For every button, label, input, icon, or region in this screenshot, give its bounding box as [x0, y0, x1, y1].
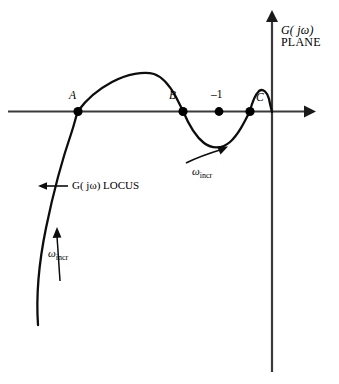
marker-critical-point [215, 107, 224, 116]
point-a-label: A [69, 90, 76, 102]
omega-incr-arrowhead-lower [53, 227, 62, 238]
nyquist-diagram [0, 0, 339, 384]
marker-point-b [178, 107, 187, 116]
imaginary-axis-arrowhead [266, 10, 278, 22]
critical-point-label: –1 [211, 89, 223, 101]
locus-callout-arrowhead [38, 182, 47, 190]
omega-incr-label-dip: ωincr [192, 166, 212, 180]
marker-point-c [245, 107, 254, 116]
omega-symbol-lower: ω [48, 247, 56, 259]
omega-subscript-dip: incr [200, 171, 212, 180]
locus-label: G( jω) LOCUS [72, 180, 139, 191]
point-c-label: C [256, 92, 264, 104]
omega-incr-arrow-dip-shaft [186, 149, 223, 163]
marker-point-a [73, 107, 82, 116]
point-b-label: B [169, 90, 176, 102]
real-axis-arrowhead [304, 106, 316, 118]
plane-label: G( jω) PLANE [281, 24, 321, 48]
omega-symbol-dip: ω [192, 165, 200, 177]
omega-incr-label-lower: ωincr [48, 248, 68, 262]
plane-label-line2: PLANE [281, 35, 321, 49]
omega-subscript-lower: incr [56, 253, 68, 262]
